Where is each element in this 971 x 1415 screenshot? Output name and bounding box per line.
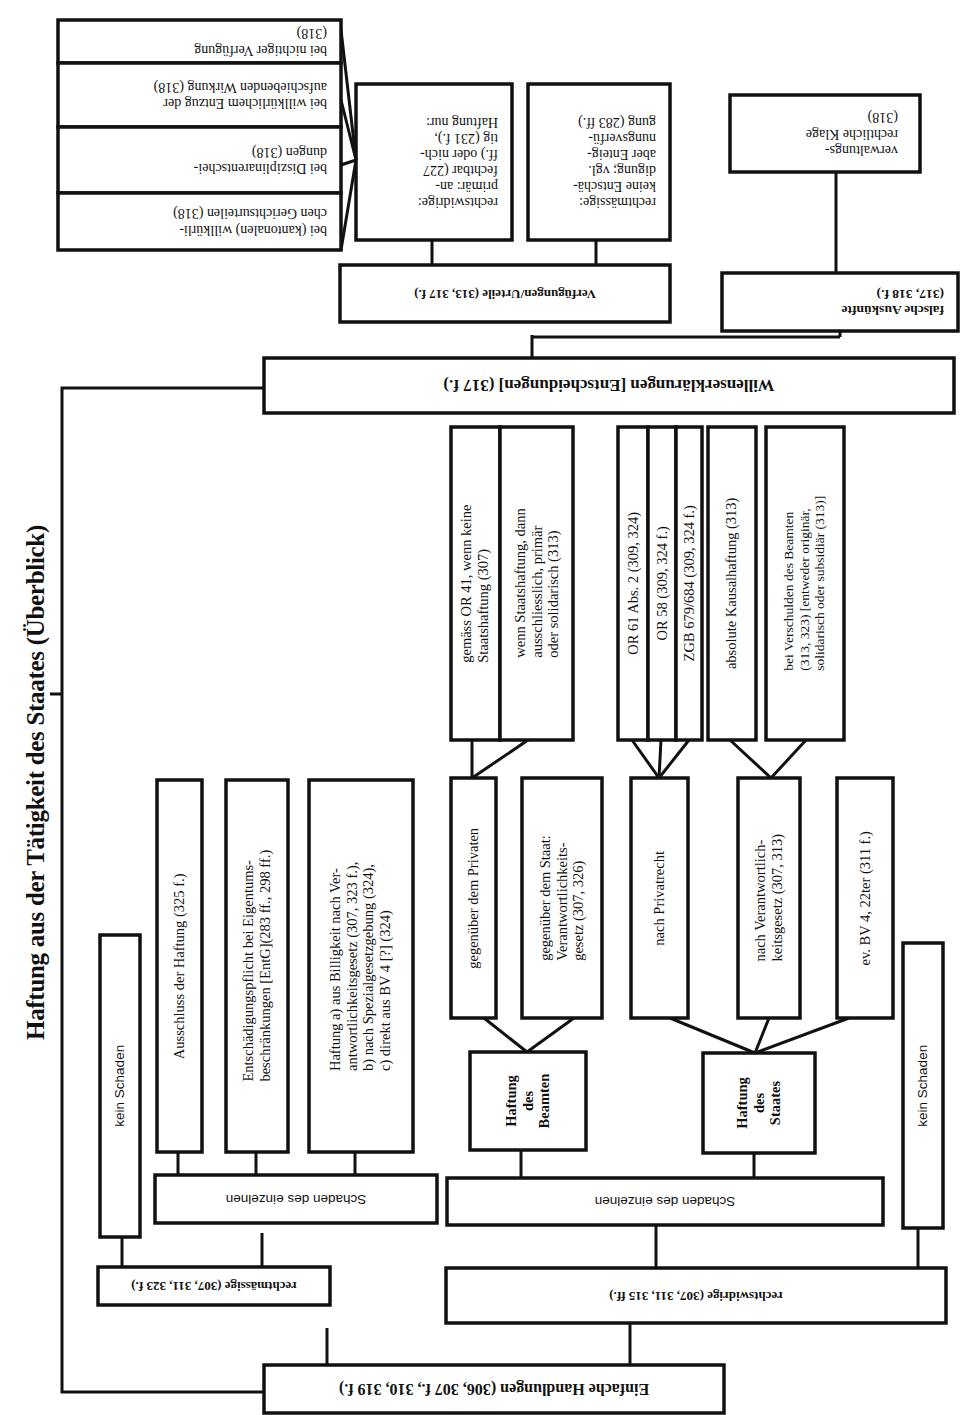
label-entschaedigungspflicht: Entschädigungspflicht bei Eigentums- bes…: [226, 780, 288, 1152]
label-disziplinarentscheidungen: bei Disziplinarentschei- dungen (318): [58, 127, 341, 193]
label-absolute-kausalhaftung: absolute Kausalhaftung (313): [708, 427, 756, 740]
label-gegenueber-staat: gegenüber dem Staat: Verantwortlichkeits…: [522, 778, 602, 1018]
label-einfache-handlungen: Einfache Handlungen (306, 307 f., 310, 3…: [264, 1365, 724, 1413]
label-haftung-billigkeit: Haftung a) aus Billigkeit nach Ver- antw…: [309, 780, 413, 1152]
label-falsche-auskuenfte: falsche Auskünfte (317, 318 f.): [722, 273, 958, 331]
label-willkuerliche-gerichtsurteile: bei (kantonalen) willkürli- chen Gericht…: [58, 193, 341, 250]
label-schaden-einzelnen-left: Schaden des einzelnen: [155, 1175, 437, 1223]
label-rechtswidrige: rechtswidrige (307, 311, 315 ff.): [446, 1268, 946, 1323]
label-verfuegung-rechtswidrige: rechtswidrige: primär: an- fechtbar (227…: [356, 84, 512, 240]
label-nach-verantwortlichkeitsgesetz: nach Verantwortlich- keitsgesetz (307, 3…: [738, 778, 800, 1018]
label-gemaess-or41: gemäss OR 41, wenn keine Staatshaftung (…: [451, 427, 500, 740]
label-schaden-einzelnen-right: Schaden des einzelnen: [447, 1178, 883, 1225]
label-rechtmaessige: rechtmässige (307, 311, 323 f.): [98, 1267, 330, 1305]
diagram-title: Haftung aus der Tätigkeit des Staates (Ü…: [22, 525, 50, 1040]
label-ausschluss-haftung: Ausschluss der Haftung (325 f.): [157, 780, 202, 1152]
label-entzug-aufschiebende-wirkung: bei willkürlichem Entzug der aufschieben…: [58, 63, 341, 127]
label-ev-bv4: ev. BV 4, 22ter (311 f.): [837, 778, 893, 1018]
label-or61: OR 61 Abs. 2 (309, 324): [618, 427, 648, 740]
label-kein-schaden-right: kein Schaden: [903, 943, 943, 1228]
label-verfuegung-rechtmaessige: rechtmässige: keine Entschä- digung; vgl…: [528, 84, 670, 240]
label-gegenueber-privaten: gegenüber dem Privaten: [451, 778, 496, 1018]
label-zgb679: ZGB 679/684 (309, 324 f.): [676, 427, 702, 740]
label-verwaltungsrechtliche-klage: verwaltungs- rechtliche Klage (318): [730, 95, 920, 172]
label-bei-verschulden: bei Verschulden des Beamten (313, 323) […: [766, 427, 844, 740]
label-nichtiger-verfuegung: bei nichtiger Verfügung (318): [58, 20, 341, 63]
label-kein-schaden-left: kein Schaden: [100, 935, 140, 1237]
label-willenserklaerungen: Willenserklärungen [Entscheidungen] (317…: [264, 358, 954, 413]
label-haftung-beamten: Haftung des Beamten: [470, 1052, 586, 1150]
label-nach-privatrecht: nach Privatrecht: [631, 778, 688, 1018]
label-or58: OR 58 (309, 324 f.): [648, 427, 676, 740]
label-haftung-staates: Haftung des Staates: [703, 1053, 815, 1153]
label-verfuegungen-urteile: Verfügungen/Urteile (313, 317 f.): [340, 265, 670, 322]
label-wenn-staatshaftung: wenn Staatshaftung, dann ausschliesslich…: [500, 427, 573, 740]
